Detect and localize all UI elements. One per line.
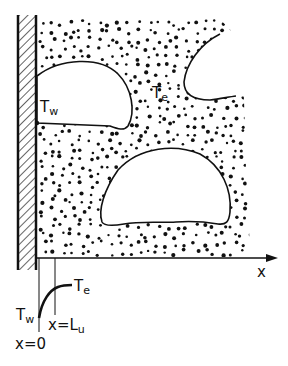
- bubble-wall: [37, 61, 132, 129]
- x-axis: [36, 254, 278, 262]
- boiling-diagram: Tw Te x Te Tw x=Lu x=0: [0, 0, 288, 366]
- label-x-length: x=Lu: [48, 316, 85, 336]
- bubble-large-center: [101, 148, 230, 225]
- label-x-origin: x=0: [15, 335, 46, 353]
- contact-point: [35, 121, 39, 125]
- arrow-icon: [266, 254, 278, 262]
- label-profile-wall-temp: Tw: [15, 306, 34, 326]
- heated-wall: [18, 15, 36, 270]
- label-profile-bulk-temp: Te: [73, 277, 90, 297]
- label-axis-x: x: [257, 263, 266, 281]
- label-bulk-temp: Te: [151, 84, 168, 104]
